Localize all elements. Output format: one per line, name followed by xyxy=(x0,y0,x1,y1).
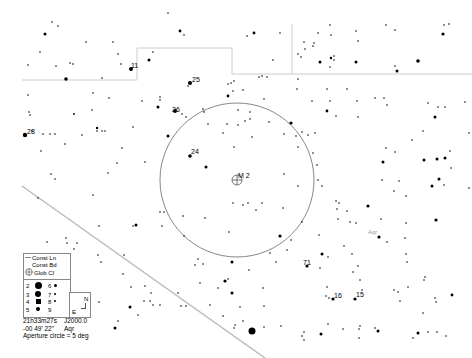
star-label-28: 28 xyxy=(27,128,35,135)
star-label-11: 11 xyxy=(131,62,138,69)
mag-label-5: 5 xyxy=(26,307,29,313)
star-chart[interactable]: 11 25 26 28 24 71 16 15 M 2 Aqr Const Ln… xyxy=(0,0,472,358)
constellation-value: Aqr xyxy=(64,325,74,333)
mag-label-6: 6 xyxy=(48,283,51,289)
mag-dot-5 xyxy=(36,307,40,311)
legend-glob-cl: Glob Cl xyxy=(34,270,54,276)
legend-const-bd: Const Bd xyxy=(32,262,57,268)
mag-dot-3 xyxy=(35,291,41,297)
constellation-label: Aqr xyxy=(368,229,377,235)
compass-box: N E xyxy=(69,292,91,318)
star-label-71: 71 xyxy=(303,259,311,266)
object-label-m2[interactable]: M 2 xyxy=(238,172,250,179)
const-line-swatch xyxy=(25,257,31,258)
star-label-25: 25 xyxy=(192,76,200,83)
mag-dot-4 xyxy=(36,299,41,304)
globular-cluster-icon xyxy=(25,268,33,276)
legend-divider xyxy=(24,279,70,280)
dec-value: -00 49' 22" xyxy=(23,325,54,332)
chart-info: 21h33m27s J2000.0 -00 49' 22" Aqr Apertu… xyxy=(23,317,89,340)
mag-dot-7 xyxy=(54,293,56,295)
compass-east: E xyxy=(72,309,76,315)
legend-const-ln: Const Ln xyxy=(32,255,56,261)
ra-value: 21h33m27s xyxy=(23,317,57,324)
legend-panel: Const Ln Const Bd Glob Cl 2 3 4 5 6 7 8 … xyxy=(23,253,71,318)
compass-north: N xyxy=(84,296,88,302)
constellation-boundaries xyxy=(22,24,472,80)
mag-label-7: 7 xyxy=(48,292,51,298)
mag-label-2: 2 xyxy=(26,283,29,289)
mag-label-9: 9 xyxy=(48,307,51,313)
mag-label-8: 8 xyxy=(48,299,51,305)
star-label-16: 16 xyxy=(334,292,342,299)
mag-dot-8 xyxy=(54,300,56,302)
mag-dot-2 xyxy=(35,282,42,289)
mag-dot-6 xyxy=(54,284,57,287)
compass-arrows-icon xyxy=(81,303,86,309)
mag-label-3: 3 xyxy=(26,292,29,298)
mag-label-4: 4 xyxy=(26,299,29,305)
epoch-value: J2000.0 xyxy=(64,317,87,325)
star-label-24: 24 xyxy=(191,148,199,155)
star-label-26: 26 xyxy=(172,106,180,113)
aperture-caption: Aperture circle = 5 deg xyxy=(23,332,89,340)
star-label-15: 15 xyxy=(356,291,364,298)
